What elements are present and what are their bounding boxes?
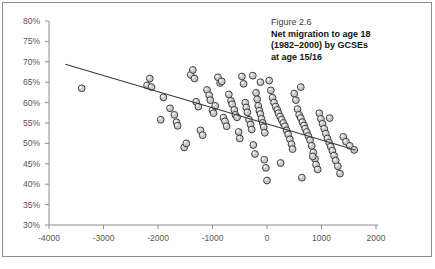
x-axis-tick-labels: -4000-3000-2000-1000010002000 — [38, 233, 386, 243]
data-point-highlight — [303, 126, 306, 129]
data-point — [160, 94, 167, 101]
data-point-highlight — [236, 130, 239, 133]
figure-number: Figure 2.6 — [271, 17, 421, 29]
data-point — [334, 163, 341, 170]
data-point-highlight — [264, 165, 267, 168]
data-point — [78, 85, 85, 92]
data-point-highlight — [249, 127, 252, 130]
data-point — [297, 84, 304, 91]
data-point-highlight — [232, 108, 235, 111]
data-point-highlight — [149, 85, 152, 88]
data-point — [337, 170, 344, 177]
data-point — [199, 132, 206, 139]
data-point-highlight — [241, 81, 244, 84]
figure-frame: 30%35%40%45%50%55%60%65%70%75%80% -4000-… — [2, 2, 432, 257]
data-point-highlight — [223, 119, 226, 122]
data-point-highlight — [184, 141, 187, 144]
data-point-highlight — [309, 143, 312, 146]
data-point-highlight — [145, 83, 148, 86]
data-point-highlight — [259, 117, 262, 120]
data-point-highlight — [270, 95, 273, 98]
data-point-highlight — [175, 123, 178, 126]
x-tick-label: -2000 — [147, 233, 169, 243]
data-point-highlight — [244, 105, 247, 108]
data-point-highlight — [200, 133, 203, 136]
data-point-highlight — [286, 132, 289, 135]
data-point-highlight — [79, 86, 82, 89]
x-tick-label: 0 — [265, 233, 270, 243]
data-point — [240, 80, 247, 87]
data-point-highlight — [208, 98, 211, 101]
data-point — [191, 75, 198, 82]
data-point-highlight — [341, 134, 344, 137]
y-tick-label: 65% — [23, 77, 40, 87]
data-point-highlight — [258, 112, 261, 115]
data-point-highlight — [237, 136, 240, 139]
data-point-highlight — [320, 121, 323, 124]
data-point-highlight — [322, 126, 325, 129]
data-point-highlight — [292, 91, 295, 94]
data-point-highlight — [267, 78, 270, 81]
data-point — [157, 116, 164, 123]
data-point-highlight — [219, 79, 222, 82]
x-tick-label: 2000 — [367, 233, 386, 243]
data-point-highlight — [298, 85, 301, 88]
data-point-highlight — [327, 116, 330, 119]
data-point-highlight — [207, 93, 210, 96]
data-point-highlight — [261, 125, 264, 128]
y-tick-label: 40% — [23, 179, 40, 189]
data-point — [292, 97, 299, 104]
data-point-highlight — [289, 142, 292, 145]
data-point-highlight — [300, 120, 303, 123]
data-point — [289, 146, 296, 153]
data-point-highlight — [299, 175, 302, 178]
data-point-highlight — [258, 80, 261, 83]
data-point — [252, 151, 259, 158]
data-point-highlight — [147, 76, 150, 79]
data-point — [146, 75, 153, 82]
data-point-highlight — [211, 111, 214, 114]
data-point-highlight — [272, 100, 275, 103]
data-point-highlight — [330, 148, 333, 151]
x-tick-label: 1000 — [312, 233, 331, 243]
data-point-highlight — [248, 122, 251, 125]
data-point-highlight — [281, 121, 284, 124]
data-point — [171, 111, 178, 118]
data-point-highlight — [198, 128, 201, 131]
y-tick-label: 35% — [23, 200, 40, 210]
data-point — [267, 87, 274, 94]
data-point-highlight — [319, 117, 322, 120]
data-point — [264, 177, 271, 184]
data-point-highlight — [174, 120, 177, 123]
data-point-highlight — [250, 73, 253, 76]
data-point-highlight — [298, 116, 301, 119]
data-point-highlight — [205, 88, 208, 91]
data-point — [309, 153, 316, 160]
x-tick-label: -3000 — [93, 233, 115, 243]
y-tick-label: 55% — [23, 118, 40, 128]
data-point — [308, 142, 315, 149]
data-point — [210, 110, 217, 117]
data-point — [263, 164, 270, 171]
data-point-highlight — [265, 178, 268, 181]
data-point-highlight — [221, 115, 224, 118]
data-point-highlight — [317, 111, 320, 114]
data-point-highlight — [158, 117, 161, 120]
y-tick-label: 80% — [23, 16, 40, 26]
data-point — [183, 140, 190, 147]
y-axis-tick-labels: 30%35%40%45%50%55%60%65%70%75%80% — [23, 16, 40, 230]
data-point-highlight — [290, 147, 293, 150]
data-point-highlight — [224, 124, 227, 127]
data-point-highlight — [297, 112, 300, 115]
data-point — [261, 129, 268, 136]
data-point — [218, 78, 225, 85]
data-point-highlight — [333, 158, 336, 161]
data-point-highlight — [304, 130, 307, 133]
figure-title-line-3: at age 15/16 — [271, 52, 421, 64]
data-point-highlight — [243, 100, 246, 103]
data-point-highlight — [315, 167, 318, 170]
data-point — [266, 77, 273, 84]
y-tick-label: 30% — [23, 220, 40, 230]
data-point — [174, 122, 181, 129]
data-point — [253, 89, 260, 96]
